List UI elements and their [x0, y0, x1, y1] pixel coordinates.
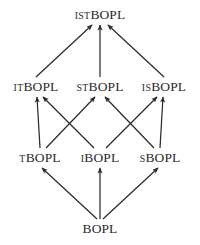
node-prefix: IST: [75, 10, 91, 21]
node-stem: BOPL: [24, 79, 59, 94]
node-stem: BOPL: [90, 7, 125, 22]
edge-arrow-itbopl-to-istbopl: [36, 25, 92, 77]
node-stem: BOPL: [83, 221, 118, 236]
edge-arrow-sbopl-to-stbopl: [105, 97, 154, 148]
node-prefix: ST: [76, 82, 88, 93]
edge-arrow-bopl-to-tbopl: [42, 168, 97, 219]
node-stem: BOPL: [89, 79, 124, 94]
edge-arrow-sbopl-to-isbopl: [160, 97, 163, 148]
node-sbopl: SBOPL: [140, 151, 181, 165]
node-istbopl: ISTBOPL: [75, 8, 126, 22]
edge-arrow-ibopl-to-itbopl: [43, 97, 94, 148]
node-prefix: IS: [142, 82, 151, 93]
node-prefix: IT: [14, 82, 24, 93]
edge-layer: [0, 0, 200, 245]
edge-arrow-ibopl-to-isbopl: [106, 97, 157, 148]
edge-group: [36, 25, 164, 219]
edge-arrow-isbopl-to-istbopl: [108, 25, 164, 77]
node-isbopl: ISBOPL: [142, 80, 186, 94]
node-stem: BOPL: [26, 150, 61, 165]
edge-arrow-tbopl-to-itbopl: [37, 97, 40, 148]
node-bopl: BOPL: [83, 222, 118, 236]
edge-arrow-tbopl-to-stbopl: [46, 97, 95, 148]
node-ibopl: IBOPL: [81, 151, 120, 165]
node-stem: BOPL: [145, 150, 180, 165]
edge-arrow-bopl-to-sbopl: [103, 168, 158, 219]
lattice-diagram: ISTBOPLITBOPLSTBOPLISBOPLTBOPLIBOPLSBOPL…: [0, 0, 200, 245]
node-tbopl: TBOPL: [19, 151, 60, 165]
node-stbopl: STBOPL: [76, 80, 123, 94]
node-itbopl: ITBOPL: [14, 80, 59, 94]
node-stem: BOPL: [84, 150, 119, 165]
node-stem: BOPL: [151, 79, 186, 94]
